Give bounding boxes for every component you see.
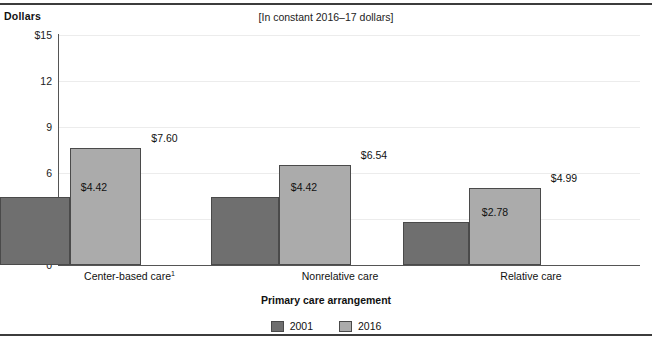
legend-swatch-icon-2016 bbox=[339, 321, 352, 332]
bar-relative-care-2001[interactable] bbox=[403, 222, 469, 265]
y-tick-label-9: 9 bbox=[0, 122, 52, 133]
legend-label-2001: 2001 bbox=[290, 320, 313, 332]
gridline-9 bbox=[59, 127, 640, 128]
x-axis-title: Primary care arrangement bbox=[0, 294, 652, 306]
footnote-marker-1: 1 bbox=[171, 270, 175, 277]
legend-label-2016: 2016 bbox=[358, 320, 381, 332]
y-tick-label-15: $15 bbox=[0, 30, 52, 41]
bar-value-center-based-care-2001: $4.42 bbox=[59, 182, 129, 193]
top-frame-rule bbox=[0, 3, 652, 5]
bar-value-relative-care-2001: $2.78 bbox=[462, 207, 528, 218]
x-tick-label-nonrelative-care: Nonrelative care bbox=[270, 270, 410, 282]
bottom-frame-rule bbox=[0, 334, 652, 336]
bar-value-center-based-care-2016: $7.60 bbox=[129, 133, 200, 144]
cutoff-title-artifact bbox=[200, 0, 620, 3]
chart-legend: 2001 2016 bbox=[0, 320, 652, 332]
bar-value-relative-care-2016: $4.99 bbox=[528, 173, 600, 184]
x-tick-label-relative-care: Relative care bbox=[462, 270, 600, 282]
gridline-15 bbox=[59, 35, 640, 36]
y-tick-label-6: 6 bbox=[0, 168, 52, 179]
bar-nonrelative-care-2016[interactable] bbox=[279, 165, 351, 265]
chart-figure: Dollars [In constant 2016–17 dollars] $1… bbox=[0, 0, 652, 344]
bar-nonrelative-care-2001[interactable] bbox=[211, 197, 279, 265]
legend-swatch-icon-2001 bbox=[271, 321, 284, 332]
bar-value-nonrelative-care-2001: $4.42 bbox=[270, 182, 338, 193]
legend-item-2016[interactable]: 2016 bbox=[339, 320, 381, 332]
bar-center-based-care-2001[interactable] bbox=[0, 197, 70, 265]
bar-center-based-care-2016[interactable] bbox=[70, 148, 141, 265]
bar-value-nonrelative-care-2016: $6.54 bbox=[338, 150, 410, 161]
legend-item-2001[interactable]: 2001 bbox=[271, 320, 313, 332]
chart-subtitle: [In constant 2016–17 dollars] bbox=[0, 11, 652, 23]
gridline-12 bbox=[59, 81, 640, 82]
x-tick-label-center-based-care-text: Center-based care bbox=[84, 270, 171, 282]
x-axis-line bbox=[58, 265, 640, 266]
bar-relative-care-2016[interactable] bbox=[469, 188, 541, 265]
x-tick-label-center-based-care: Center-based care1 bbox=[59, 270, 200, 282]
y-tick-label-12: 12 bbox=[0, 76, 52, 87]
